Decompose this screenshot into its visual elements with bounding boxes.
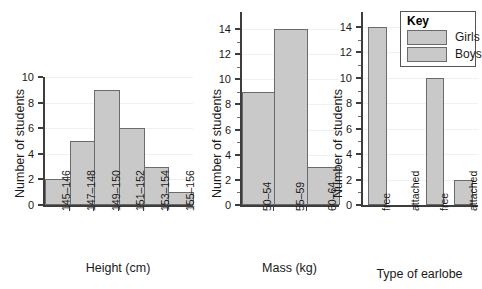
- x-axis-tick: [167, 207, 168, 211]
- x-axis-tick: [306, 207, 307, 211]
- y-axis-tick: [356, 77, 361, 79]
- legend-swatch-boys: [407, 47, 447, 62]
- x-axis-tick: [143, 207, 144, 211]
- y-axis-tick: [235, 28, 240, 30]
- y-axis-tick-label: 10: [12, 72, 34, 83]
- y-axis-minor-tick: [358, 91, 361, 92]
- y-axis-tick: [38, 76, 43, 78]
- y-axis-tick-label: 2: [330, 175, 352, 186]
- y-axis-tick: [235, 129, 240, 131]
- y-axis-tick: [38, 102, 43, 104]
- chart-legend-key: Key Girls Boys: [400, 11, 476, 67]
- x-axis-tick-label: 147–148: [86, 170, 97, 211]
- x-axis-tick: [273, 207, 274, 211]
- y-axis-minor-tick: [237, 142, 240, 143]
- x-axis-tick-label: attached: [410, 171, 421, 211]
- legend-entry-boys: Boys: [407, 47, 469, 62]
- y-axis-tick: [235, 204, 240, 206]
- y-axis-tick: [235, 179, 240, 181]
- y-axis-tick-label: 8: [209, 99, 231, 110]
- y-axis-tick: [356, 179, 361, 181]
- y-axis-minor-tick: [358, 141, 361, 142]
- y-axis-tick-label: 12: [209, 49, 231, 60]
- bar: [368, 27, 386, 205]
- x-axis-tick-label: 153–154: [160, 170, 171, 211]
- y-axis-tick-label: 14: [330, 22, 352, 33]
- x-axis-tick-label: 149–150: [111, 170, 122, 211]
- y-axis-tick: [356, 26, 361, 28]
- x-axis-label-height: Height (cm): [43, 262, 193, 275]
- legend-label-girls: Girls: [455, 31, 480, 44]
- x-axis-tick-label: 155–156: [185, 170, 196, 211]
- legend-swatch-girls: [407, 30, 447, 45]
- y-axis-minor-tick: [358, 116, 361, 117]
- x-axis-tick-label: 151–152: [135, 170, 146, 211]
- y-axis-minor-tick: [358, 40, 361, 41]
- y-axis-tick: [235, 78, 240, 80]
- y-axis-tick: [38, 204, 43, 206]
- y-axis-minor-tick: [237, 117, 240, 118]
- y-axis-tick-label: 4: [330, 149, 352, 160]
- x-axis-tick-label: 50–54: [262, 182, 273, 211]
- y-axis-tick: [356, 128, 361, 130]
- y-axis-tick: [235, 53, 240, 55]
- y-axis-tick-label: 0: [330, 200, 352, 211]
- y-axis-tick: [38, 153, 43, 155]
- y-axis-tick: [38, 127, 43, 129]
- y-axis-tick-label: 10: [209, 74, 231, 85]
- bar: [426, 78, 444, 205]
- y-axis-tick: [38, 178, 43, 180]
- y-axis-tick-label: 2: [209, 175, 231, 186]
- y-axis-tick-label: 0: [209, 200, 231, 211]
- gridline: [45, 77, 193, 78]
- legend-entry-girls: Girls: [407, 30, 469, 45]
- y-axis-minor-tick: [358, 65, 361, 66]
- y-axis-tick: [356, 153, 361, 155]
- y-axis-tick: [356, 51, 361, 53]
- y-axis-tick: [235, 103, 240, 105]
- y-axis-tick-label: 4: [12, 149, 34, 160]
- y-axis-tick-label: 12: [330, 47, 352, 58]
- y-axis-minor-tick: [237, 92, 240, 93]
- x-axis-tick: [118, 207, 119, 211]
- x-axis-tick: [69, 207, 70, 211]
- y-axis-tick-label: 0: [12, 200, 34, 211]
- y-axis-minor-tick: [237, 167, 240, 168]
- legend-label-boys: Boys: [455, 48, 482, 61]
- y-axis-tick-label: 10: [330, 73, 352, 84]
- x-axis-tick-label: free: [439, 193, 450, 211]
- y-axis-tick-label: 6: [209, 125, 231, 136]
- y-axis-tick-label: 8: [330, 98, 352, 109]
- y-axis-stub-earlobe: [361, 12, 363, 27]
- x-axis-tick-label: 55–59: [295, 182, 306, 211]
- y-axis-tick-label: 4: [209, 150, 231, 161]
- y-axis-tick: [356, 204, 361, 206]
- y-axis-tick-label: 6: [330, 124, 352, 135]
- y-axis-minor-tick: [237, 67, 240, 68]
- x-axis-tick-label: attached: [468, 171, 479, 211]
- plot-area-mass: [240, 29, 339, 207]
- y-axis-tick-label: 14: [209, 24, 231, 35]
- y-axis-tick: [235, 154, 240, 156]
- legend-title: Key: [407, 15, 469, 28]
- y-axis-tick-label: 8: [12, 98, 34, 109]
- x-axis-tick-label: free: [381, 193, 392, 211]
- bar: [274, 29, 307, 205]
- x-axis-label-mass: Mass (kg): [240, 262, 339, 275]
- y-axis-minor-tick: [237, 42, 240, 43]
- y-axis-tick: [356, 102, 361, 104]
- y-axis-minor-tick: [358, 192, 361, 193]
- x-axis-tick: [93, 207, 94, 211]
- y-axis-minor-tick: [237, 192, 240, 193]
- y-axis-minor-tick: [358, 167, 361, 168]
- x-axis-label-earlobe: Type of earlobe: [361, 268, 478, 281]
- y-axis-stub-mass: [240, 12, 242, 29]
- y-axis-tick-label: 6: [12, 123, 34, 134]
- x-axis-tick-label: 145–146: [61, 170, 72, 211]
- y-axis-tick-label: 2: [12, 174, 34, 185]
